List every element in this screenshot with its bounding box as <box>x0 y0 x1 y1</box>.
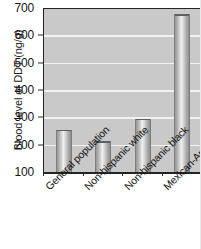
y-axis-tick-label: 500 <box>15 56 34 70</box>
y-axis-tick-label: 100 <box>15 165 34 179</box>
x-axis-tick-mark <box>43 172 44 176</box>
x-axis-tick-mark <box>122 172 123 176</box>
y-axis-tick-mark <box>38 144 43 145</box>
y-axis-tick-label: 600 <box>15 28 34 42</box>
y-axis-tick-mark <box>38 62 43 63</box>
y-axis-tick-mark <box>38 90 43 91</box>
y-axis-tick-label: 200 <box>15 138 34 152</box>
bar[interactable] <box>174 14 190 172</box>
y-axis-tick-label: 400 <box>15 83 34 97</box>
y-axis-tick-label: 300 <box>15 110 34 124</box>
y-axis-tick-mark <box>38 35 43 36</box>
y-axis-tick-label: 700 <box>15 1 34 15</box>
x-axis-tick-mark <box>162 172 163 176</box>
y-axis-tick-labels: 100200300400500600700 <box>0 0 37 249</box>
x-axis-tick-mark <box>83 172 84 176</box>
y-axis-tick-mark <box>38 117 43 118</box>
bar-chart-figure: Blood level of DDT (ng/g) 10020030040050… <box>0 0 201 249</box>
right-edge-artifact <box>200 0 201 249</box>
